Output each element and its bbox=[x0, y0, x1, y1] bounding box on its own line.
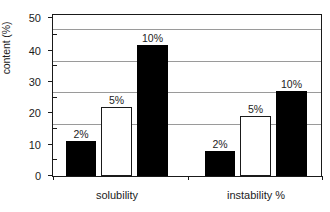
gridline-40 bbox=[53, 29, 321, 30]
y-tick-label-10: 10 bbox=[19, 139, 41, 151]
plot-area: 0 10 20 30 40 50 2% 5% 10% bbox=[52, 14, 322, 177]
bar-instability-2pct: 2% bbox=[205, 151, 235, 176]
bar-label-solubility-5pct: 5% bbox=[109, 94, 124, 106]
bar-solubility-10pct: 10% bbox=[137, 45, 168, 176]
y-tick-label-20: 20 bbox=[19, 107, 41, 119]
y-tick-20: 20 bbox=[48, 112, 53, 113]
bar-chart-figure: content (%) 0 10 20 30 40 50 bbox=[0, 0, 330, 212]
y-tick-label-0: 0 bbox=[19, 170, 41, 182]
y-tick-label-30: 30 bbox=[19, 76, 41, 88]
y-tick-label-50: 50 bbox=[19, 12, 41, 24]
bar-instability-10pct: 10% bbox=[276, 91, 307, 176]
y-tick-30: 30 bbox=[48, 81, 53, 82]
y-minor-tick-25 bbox=[53, 97, 57, 98]
x-tick-left-edge bbox=[53, 176, 54, 180]
y-tick-40: 40 bbox=[48, 50, 53, 51]
y-minor-tick-35 bbox=[53, 65, 57, 66]
bar-label-instability-10pct: 10% bbox=[281, 78, 302, 90]
x-axis-label-instability: instability % bbox=[227, 189, 285, 201]
bar-label-instability-2pct: 2% bbox=[212, 138, 227, 150]
bar-solubility-5pct: 5% bbox=[101, 107, 132, 176]
gridline-30 bbox=[53, 61, 321, 62]
bar-instability-5pct: 5% bbox=[240, 116, 271, 176]
y-tick-50: 50 bbox=[48, 17, 53, 18]
y-tick-10: 10 bbox=[48, 144, 53, 145]
bar-label-instability-5pct: 5% bbox=[248, 103, 263, 115]
y-tick-label-40: 40 bbox=[19, 45, 41, 57]
x-tick-middle bbox=[188, 176, 189, 180]
y-minor-tick-15 bbox=[53, 128, 57, 129]
bar-label-solubility-2pct: 2% bbox=[73, 128, 88, 140]
x-axis-label-solubility: solubility bbox=[96, 189, 138, 201]
y-minor-tick-45 bbox=[53, 34, 57, 35]
bar-label-solubility-10pct: 10% bbox=[142, 32, 163, 44]
x-tick-right-edge bbox=[322, 176, 323, 180]
bar-solubility-2pct: 2% bbox=[66, 141, 96, 176]
y-axis-title: content (%) bbox=[0, 8, 14, 88]
y-minor-tick-5 bbox=[53, 159, 57, 160]
